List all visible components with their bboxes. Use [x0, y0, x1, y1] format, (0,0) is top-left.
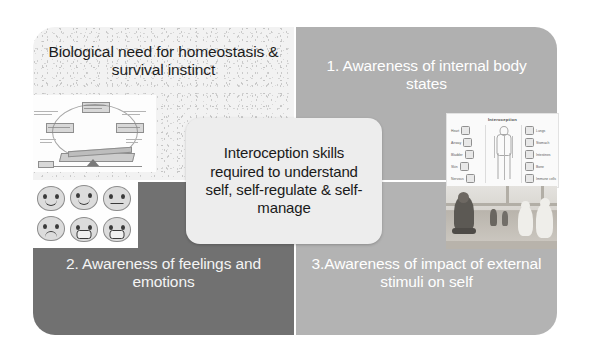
nervous-system-icon [466, 174, 475, 183]
four-quadrant-diagram: Biological need for homeostasis & surviv… [33, 27, 557, 336]
bone-icon [525, 162, 534, 171]
skin-icon [460, 162, 469, 171]
immune-cells-icon [525, 174, 534, 183]
io-right-label-4: Immune cells [536, 177, 556, 181]
io-left-label-3: Skin [451, 165, 458, 169]
bladder-icon [465, 150, 474, 159]
children-in-hall-photo [446, 186, 557, 249]
interoception-image-title: Interoception [447, 117, 558, 122]
quadrant-top-left-label: Biological need for homeostasis & surviv… [33, 43, 294, 79]
center-callout[interactable]: Interoception skills required to underst… [186, 118, 382, 244]
interoception-body-image: Interoception Heart Airway Bladder Skin … [446, 113, 559, 188]
airway-icon [463, 138, 472, 147]
io-left-label-4: Nervous [451, 177, 464, 181]
io-right-label-0: Lungs [536, 129, 545, 133]
homeostasis-cycle-image [33, 95, 156, 172]
io-right-label-1: Stomach [536, 141, 549, 145]
io-left-label-2: Bladder [451, 153, 463, 157]
emotion-faces-image [30, 180, 138, 248]
lungs-icon [525, 126, 534, 135]
io-left-label-0: Heart [451, 129, 459, 133]
center-callout-text: Interoception skills required to underst… [186, 144, 382, 217]
quadrant-bottom-right-label: 3.Awareness of impact of external stimul… [296, 255, 557, 291]
io-right-label-3: Bone [536, 165, 544, 169]
io-left-label-1: Airway [451, 141, 461, 145]
quadrant-bottom-left-label: 2. Awareness of feelings and emotions [33, 255, 294, 291]
stomach-icon [525, 138, 534, 147]
intestines-icon [525, 150, 534, 159]
io-right-label-2: Intestines [536, 153, 551, 157]
slide-canvas: Biological need for homeostasis & surviv… [0, 0, 590, 364]
body-outline-graphic [485, 125, 522, 183]
quadrant-top-right-label: 1. Awareness of internal body states [296, 57, 557, 93]
heart-icon [461, 126, 470, 135]
